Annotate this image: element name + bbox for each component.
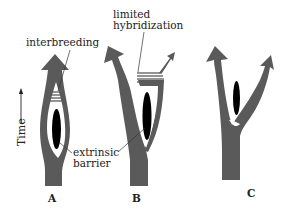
time-axis: Time — [15, 88, 28, 146]
lineage-c-left — [206, 46, 274, 180]
panel-label-b: B — [132, 192, 141, 204]
label-barrier: barrier — [73, 157, 112, 169]
speciation-diagram: Time A — [0, 0, 292, 216]
hybridization-leader — [138, 32, 144, 72]
panel-c: C — [206, 46, 274, 199]
panel-label-c: C — [247, 187, 255, 199]
label-hybridization: hybridization — [113, 19, 184, 31]
panel-a: A — [40, 50, 72, 204]
label-interbreeding: interbreeding — [26, 36, 100, 48]
extrinsic-barrier-b — [143, 92, 152, 140]
extrinsic-barrier-a — [52, 109, 61, 149]
lineage-b-thin-branch — [159, 52, 175, 73]
panel-label-a: A — [47, 192, 57, 204]
time-arrow-icon — [19, 88, 23, 94]
time-axis-label: Time — [15, 118, 28, 146]
extrinsic-barrier-c — [233, 81, 240, 115]
panel-b: B — [104, 32, 175, 204]
